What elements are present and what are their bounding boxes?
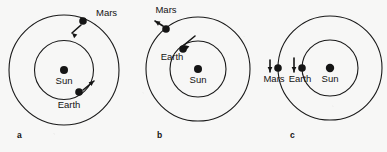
sun-label-panel-c: Sun xyxy=(322,73,339,84)
mars-dot-panel-c xyxy=(274,64,282,72)
panel-a: SunMarsEartha xyxy=(9,7,119,140)
sun-dot-panel-b xyxy=(194,65,202,73)
sun-dot-panel-a xyxy=(60,66,68,74)
panel-b: SunMarsEarthb xyxy=(146,4,250,140)
sun-label-panel-a: Sun xyxy=(56,75,73,86)
panel-label-c: c xyxy=(290,130,295,140)
figure-canvas: SunMarsEarthaSunMarsEarthbSunMarsEarthc xyxy=(0,0,387,152)
mars-label-panel-c: Mars xyxy=(263,73,284,84)
mars-label-panel-b: Mars xyxy=(155,4,176,15)
mars-label-panel-a: Mars xyxy=(96,7,117,18)
earth-velocity-arrowhead-panel-c xyxy=(292,67,297,72)
panel-c: SunMarsEarthc xyxy=(263,16,382,140)
sun-dot-panel-c xyxy=(326,64,334,72)
earth-velocity-arrow-panel-b xyxy=(184,36,195,45)
mars-velocity-arrow-panel-a xyxy=(72,25,81,33)
panel-label-b: b xyxy=(157,130,162,140)
sun-label-panel-b: Sun xyxy=(190,74,207,85)
mars-velocity-arrowhead-panel-c xyxy=(268,67,273,72)
mars-dot-panel-a xyxy=(79,17,87,25)
panel-label-a: a xyxy=(17,130,22,140)
earth-label-panel-a: Earth xyxy=(58,99,81,110)
earth-dot-panel-a xyxy=(75,88,83,96)
earth-label-panel-b: Earth xyxy=(161,51,184,62)
earth-label-panel-c: Earth xyxy=(289,73,312,84)
orbital-diagram-svg: SunMarsEarthaSunMarsEarthbSunMarsEarthc xyxy=(0,0,387,152)
earth-dot-panel-c xyxy=(298,64,306,72)
mars-velocity-arrowhead-panel-a xyxy=(72,33,77,38)
